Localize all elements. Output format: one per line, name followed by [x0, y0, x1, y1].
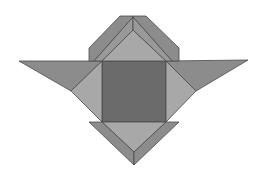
- center-square: [102, 61, 166, 122]
- figure-canvas: [0, 0, 266, 178]
- geometric-shape: [0, 0, 266, 178]
